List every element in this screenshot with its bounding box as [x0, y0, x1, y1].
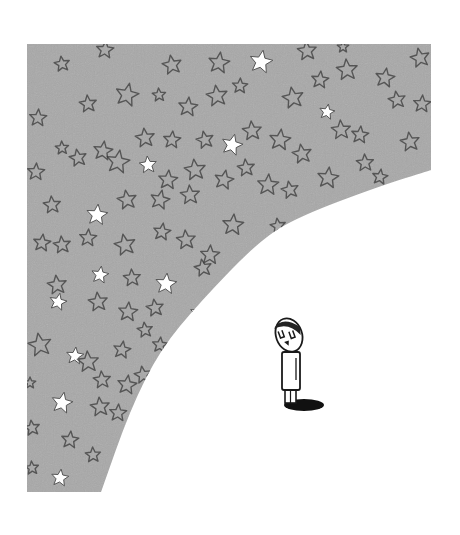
starry-sky-illustration: [0, 0, 460, 535]
figure-body: [282, 352, 300, 390]
